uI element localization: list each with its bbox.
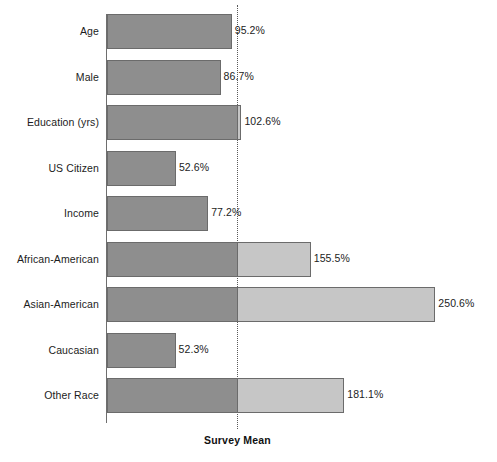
bar-row[interactable] xyxy=(107,196,208,231)
survey-mean-caption: Survey Mean xyxy=(0,434,497,446)
horizontal-bar-chart: 95.2%86.7%102.6%52.6%77.2%155.5%250.6%52… xyxy=(0,0,497,462)
bar-row[interactable] xyxy=(107,242,311,277)
bar-segment-below-mean xyxy=(107,14,232,49)
bar-row[interactable] xyxy=(107,105,241,140)
bar-segment-below-mean xyxy=(107,333,176,368)
bar-segment-above-mean xyxy=(238,242,311,277)
survey-mean-label: Survey Mean xyxy=(204,434,271,446)
bar-segment-above-mean xyxy=(238,287,435,322)
bar-value-label: 52.3% xyxy=(179,344,209,355)
bar-segment-below-mean xyxy=(107,60,221,95)
bar-segment-below-mean xyxy=(107,242,238,277)
bar-row[interactable] xyxy=(107,287,435,322)
bar-row[interactable] xyxy=(107,378,344,413)
bar-row[interactable] xyxy=(107,333,176,368)
category-label: US Citizen xyxy=(48,163,99,174)
category-label: Education (yrs) xyxy=(27,117,99,128)
bar-row[interactable] xyxy=(107,14,232,49)
bar-segment-below-mean xyxy=(107,151,176,186)
bar-value-label: 77.2% xyxy=(211,207,241,218)
category-label: Asian-American xyxy=(23,299,99,310)
bar-segment-below-mean xyxy=(107,105,238,140)
bar-segment-below-mean xyxy=(107,378,238,413)
category-label: Income xyxy=(64,208,99,219)
bar-row[interactable] xyxy=(107,60,221,95)
bar-segment-below-mean xyxy=(107,287,238,322)
category-label: African-American xyxy=(17,254,99,265)
bar-segment-above-mean xyxy=(238,105,241,140)
bar-value-label: 181.1% xyxy=(347,389,383,400)
bar-value-label: 95.2% xyxy=(235,25,265,36)
bar-value-label: 86.7% xyxy=(224,71,254,82)
category-label: Caucasian xyxy=(48,345,99,356)
bar-row[interactable] xyxy=(107,151,176,186)
bar-segment-below-mean xyxy=(107,196,208,231)
bar-segment-above-mean xyxy=(238,378,344,413)
bar-value-label: 102.6% xyxy=(244,116,280,127)
plot-area: 95.2%86.7%102.6%52.6%77.2%155.5%250.6%52… xyxy=(106,14,497,423)
category-label: Other Race xyxy=(44,390,99,401)
category-label: Age xyxy=(80,26,99,37)
bar-value-label: 250.6% xyxy=(438,298,474,309)
category-label: Male xyxy=(76,72,99,83)
bar-value-label: 52.6% xyxy=(179,162,209,173)
bar-value-label: 155.5% xyxy=(314,253,350,264)
